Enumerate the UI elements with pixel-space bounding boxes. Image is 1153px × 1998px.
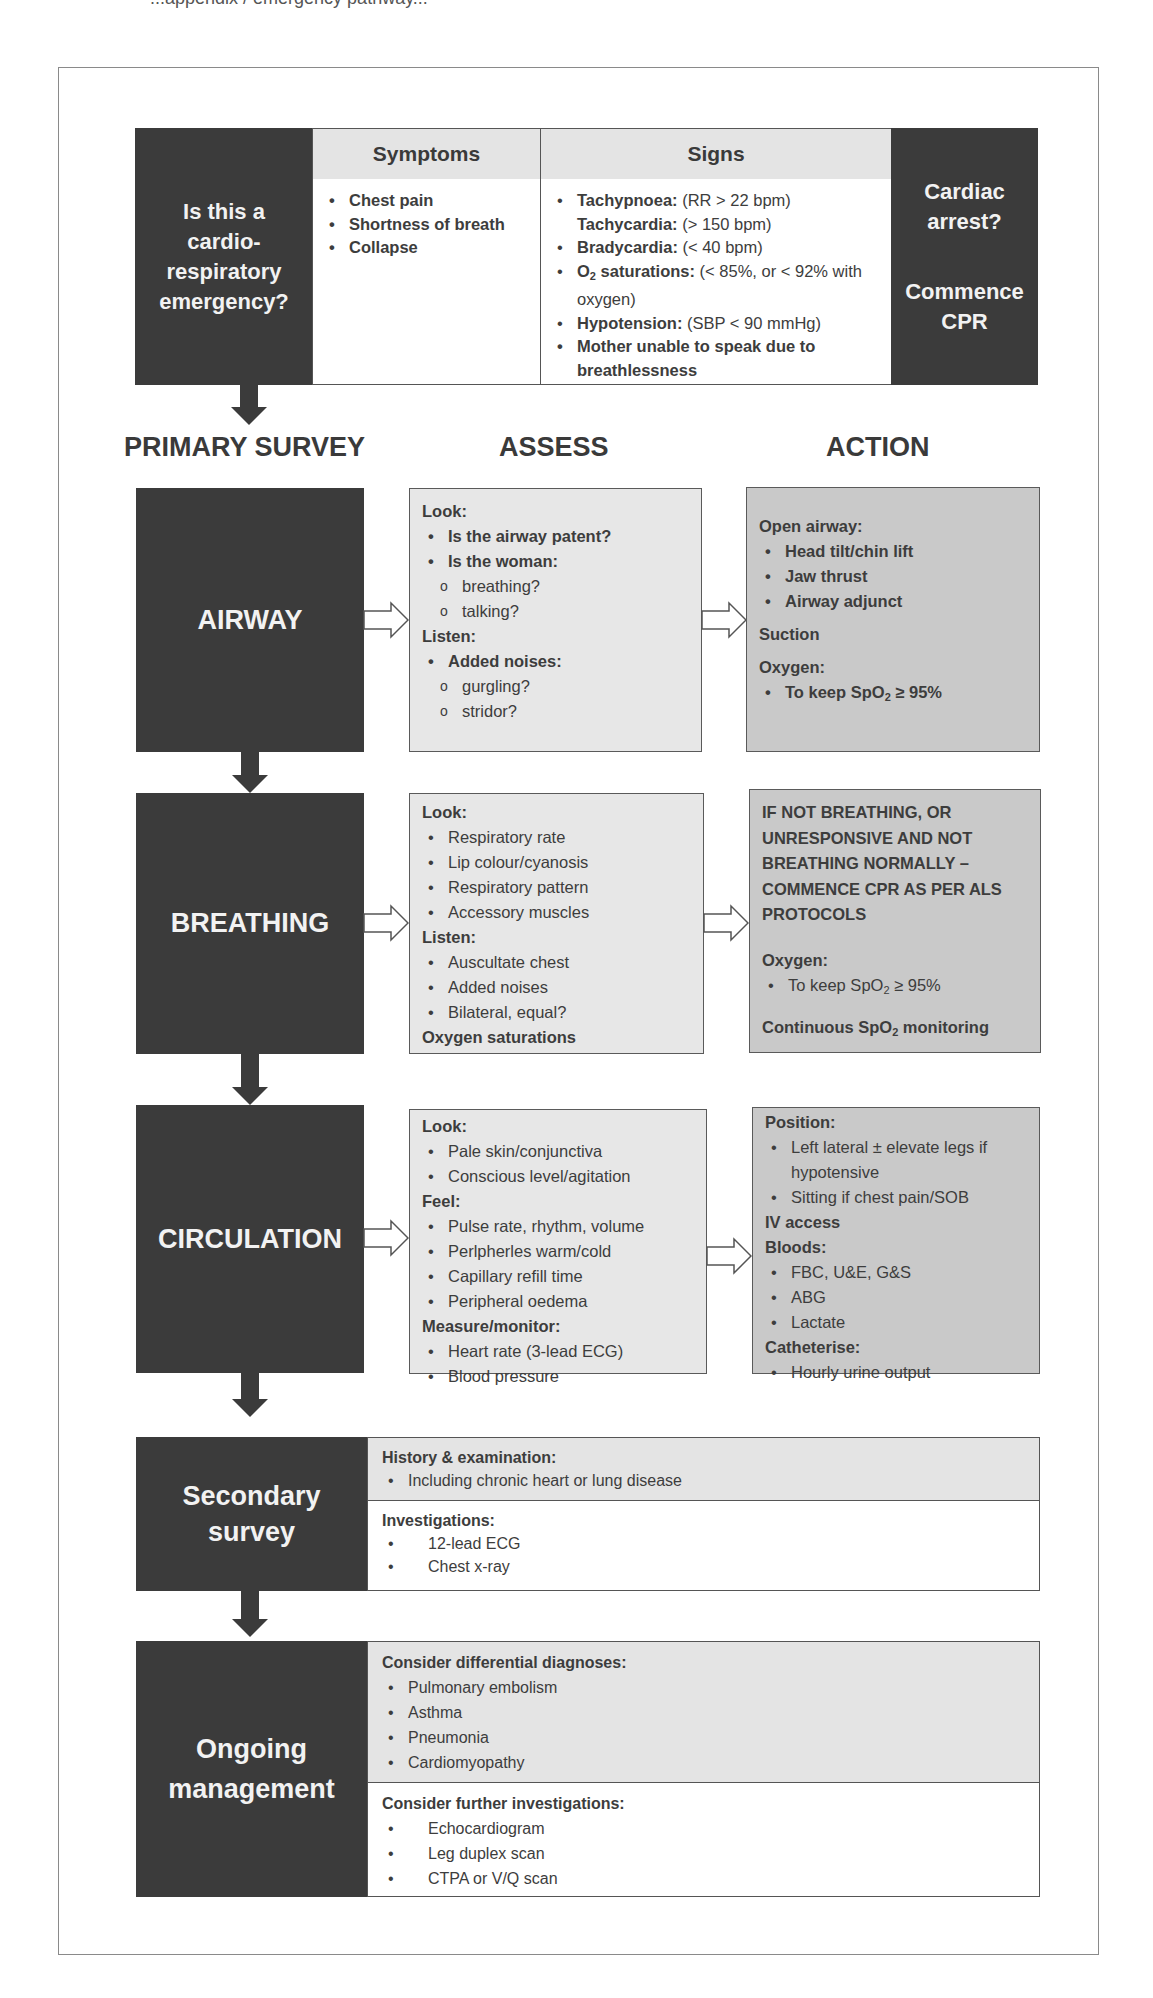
emergency-question-box: Is this a cardio- respiratory emergency? (135, 128, 313, 385)
differential-item: Pneumonia (382, 1725, 1025, 1750)
assess-item: Added noises: (422, 649, 689, 674)
down-arrow-icon (231, 385, 267, 425)
investigations-band: Investigations: 12-lead ECG Chest x-ray (367, 1501, 1040, 1591)
history-item: Including chronic heart or lung disease (382, 1469, 1025, 1492)
primary-survey-heading: PRIMARY SURVEY (124, 432, 365, 463)
signs-header-label: Signs (687, 142, 744, 166)
look-heading: Look: (422, 499, 689, 524)
investigations-heading: Investigations: (382, 1509, 1025, 1532)
oxygen-heading: Oxygen: (759, 655, 1027, 680)
question-line: emergency? (159, 287, 289, 317)
assess-heading: ASSESS (499, 432, 609, 463)
action-item: Sitting if chest pain/SOB (765, 1185, 1027, 1210)
right-arrow-icon (706, 1237, 752, 1275)
ongoing-management-box: Ongoing management (136, 1641, 367, 1897)
look-heading: Look: (422, 800, 691, 825)
secondary-label-line: Secondary (182, 1478, 320, 1514)
arrest-question-line: Cardiac (924, 177, 1005, 207)
ongoing-label-line: Ongoing (196, 1729, 307, 1769)
history-examination-band: History & examination: Including chronic… (367, 1437, 1040, 1501)
further-investigation-item: Echocardiogram (382, 1816, 1025, 1841)
differentials-heading: Consider differential diagnoses: (382, 1650, 1025, 1675)
question-line: Is this a (159, 197, 289, 227)
assess-subitem: talking? (422, 599, 689, 624)
action-item: Airway adjunct (759, 589, 1027, 614)
airway-assess-box: Look: Is the airway patent? Is the woman… (409, 488, 702, 752)
question-line: respiratory (159, 257, 289, 287)
listen-heading: Listen: (422, 925, 691, 950)
circulation-box: CIRCULATION (136, 1105, 364, 1373)
sign-item: Bradycardia: (< 40 bpm) (551, 236, 883, 260)
cpr-warning: IF NOT BREATHING, OR UNRESPONSIVE AND NO… (762, 800, 1028, 928)
assess-item: Perlpherles warm/cold (422, 1239, 694, 1264)
assess-item: Respiratory pattern (422, 875, 691, 900)
further-investigations-band: Consider further investigations: Echocar… (367, 1783, 1040, 1897)
further-investigations-heading: Consider further investigations: (382, 1791, 1025, 1816)
symptom-item: Shortness of breath (323, 213, 532, 237)
further-investigation-item: Leg duplex scan (382, 1841, 1025, 1866)
breathing-assess-box: Look: Respiratory rate Lip colour/cyanos… (409, 793, 704, 1054)
right-arrow-icon (363, 904, 409, 942)
action-item: To keep SpO2 ≥ 95% (762, 973, 1028, 1003)
symptoms-list-cell: Chest pain Shortness of breath Collapse (312, 179, 541, 385)
down-arrow-icon (232, 1373, 268, 1417)
action-heading: ACTION (826, 432, 930, 463)
assess-item: Is the woman: (422, 549, 689, 574)
arrest-action-line: Commence (905, 277, 1024, 307)
symptoms-list: Chest pain Shortness of breath Collapse (323, 189, 532, 260)
investigation-item: Chest x-ray (382, 1555, 1025, 1578)
assess-item: Auscultate chest (422, 950, 691, 975)
differential-item: Pulmonary embolism (382, 1675, 1025, 1700)
airway-label: AIRWAY (197, 605, 302, 636)
action-item: FBC, U&E, G&S (765, 1260, 1027, 1285)
open-airway-heading: Open airway: (759, 514, 1027, 539)
down-arrow-icon (232, 1591, 268, 1637)
listen-heading: Listen: (422, 624, 689, 649)
down-arrow-icon (232, 1054, 268, 1105)
circulation-action-box: Position: Left lateral ± elevate legs if… (752, 1107, 1040, 1374)
secondary-survey-box: Secondary survey (136, 1437, 367, 1591)
assess-item: Respiratory rate (422, 825, 691, 850)
breathing-action-box: IF NOT BREATHING, OR UNRESPONSIVE AND NO… (749, 789, 1041, 1053)
circulation-label: CIRCULATION (158, 1224, 342, 1255)
assess-item: Capillary refill time (422, 1264, 694, 1289)
position-heading: Position: (765, 1110, 1027, 1135)
cropped-caption-text: ...appendix / emergency pathway... (150, 0, 428, 9)
action-item: Head tilt/chin lift (759, 539, 1027, 564)
signs-list-cell: Tachypnoea: (RR > 22 bpm)Tachycardia: (>… (540, 179, 892, 385)
measure-heading: Measure/monitor: (422, 1314, 694, 1339)
airway-action-box: Open airway: Head tilt/chin lift Jaw thr… (746, 487, 1040, 752)
assess-subitem: breathing? (422, 574, 689, 599)
assess-item: Conscious level/agitation (422, 1164, 694, 1189)
right-arrow-icon (363, 1219, 409, 1257)
breathing-label: BREATHING (171, 908, 330, 939)
arrest-question-line: arrest? (927, 207, 1002, 237)
oxygen-saturations-heading: Oxygen saturations (422, 1025, 691, 1050)
sign-item: Mother unable to speak due to breathless… (551, 335, 883, 382)
secondary-label-line: survey (208, 1514, 295, 1550)
sign-item: Tachypnoea: (RR > 22 bpm)Tachycardia: (>… (551, 189, 883, 236)
suction-heading: Suction (759, 622, 1027, 647)
feel-heading: Feel: (422, 1189, 694, 1214)
symptom-item: Collapse (323, 236, 532, 260)
symptoms-header: Symptoms (312, 128, 541, 180)
differential-item: Cardiomyopathy (382, 1750, 1025, 1775)
oxygen-heading: Oxygen: (762, 948, 1028, 973)
differential-diagnoses-band: Consider differential diagnoses: Pulmona… (367, 1641, 1040, 1783)
assess-item: Lip colour/cyanosis (422, 850, 691, 875)
assess-item: Heart rate (3-lead ECG) (422, 1339, 694, 1364)
spo2-monitoring-heading: Continuous SpO2 monitoring (762, 1015, 1028, 1045)
breathing-box: BREATHING (136, 793, 364, 1054)
assess-item: Pale skin/conjunctiva (422, 1139, 694, 1164)
assess-item: Added noises (422, 975, 691, 1000)
arrest-action-line: CPR (941, 307, 987, 337)
assess-item: Peripheral oedema (422, 1289, 694, 1314)
differential-item: Asthma (382, 1700, 1025, 1725)
iv-access-heading: IV access (765, 1210, 1027, 1235)
bloods-heading: Bloods: (765, 1235, 1027, 1260)
symptoms-header-label: Symptoms (373, 142, 480, 166)
investigation-item: 12-lead ECG (382, 1532, 1025, 1555)
assess-item: Accessory muscles (422, 900, 691, 925)
circulation-assess-box: Look: Pale skin/conjunctiva Conscious le… (409, 1109, 707, 1374)
right-arrow-icon (701, 601, 747, 639)
